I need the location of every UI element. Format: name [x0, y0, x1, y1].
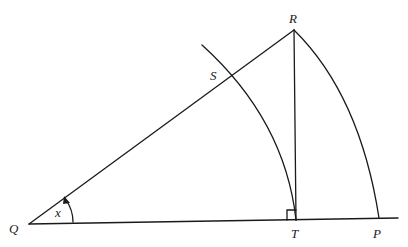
line-rt [294, 30, 296, 220]
label-angle-x: x [54, 205, 61, 220]
label-p: P [372, 226, 381, 241]
baseline-qp [29, 218, 398, 224]
arc-rp [294, 30, 379, 218]
label-r: R [288, 11, 297, 26]
label-s: S [210, 68, 217, 83]
line-qr [29, 30, 294, 224]
geometry-diagram: Q R S T P x [0, 0, 408, 247]
label-q: Q [9, 221, 19, 236]
label-t: T [291, 226, 299, 241]
